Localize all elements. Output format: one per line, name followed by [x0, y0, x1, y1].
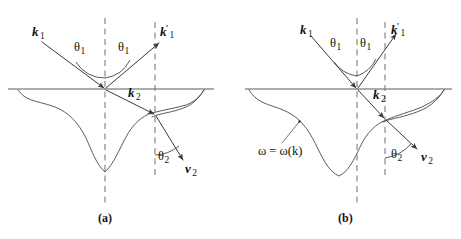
panel-a-label-k2: k2: [128, 86, 141, 102]
panel-a-dispersion-curve-inner: [152, 90, 204, 117]
panel-a-label-theta1-left-sub: 1: [81, 46, 86, 56]
panel-b-dispersion-label-leader: [282, 122, 299, 143]
panel-a-label-k2-base: k: [128, 85, 135, 100]
panel-a-label-k2-sub: 2: [136, 92, 141, 102]
panel-b-label-k2-sub: 2: [381, 94, 386, 104]
panel-b-label-theta1-right-base: θ: [360, 36, 366, 50]
panel-b-label-theta1-left-base: θ: [330, 36, 336, 50]
panel-a-label-theta2: θ2: [158, 150, 169, 165]
panel-a-label-v2: v2: [185, 162, 197, 178]
panel-a-group: [8, 18, 214, 203]
panel-b-label-theta1-right-sub: 1: [367, 42, 372, 52]
panel-b-label-k2: k2: [373, 88, 386, 104]
panel-a-label-theta1-right-base: θ: [118, 40, 124, 54]
panel-b-dispersion-leader-dot: [298, 120, 301, 123]
panel-a-caption: (a): [98, 212, 112, 224]
panel-b-label-k1-prime: k'1: [391, 21, 405, 39]
panel-a-dispersion-curve-left: [18, 90, 204, 172]
panel-a-label-theta1-left: θ1: [74, 41, 85, 56]
panel-b-label-v2-sub: 2: [428, 156, 433, 166]
panel-a-label-k1-sub: 1: [40, 31, 45, 41]
panel-b-label-theta2-base: θ: [391, 147, 397, 161]
panel-b-label-v2: v2: [421, 150, 433, 166]
physics-diagram-figure: k1 k'1 k2 v2 θ1 θ1 θ2 (a) k1 k'1 k2 v2 θ…: [0, 0, 461, 239]
panel-a-label-k1-prime: k'1: [160, 23, 174, 41]
panel-b-label-theta2-sub: 2: [398, 153, 403, 163]
panel-a-label-theta2-sub: 2: [165, 155, 170, 165]
panel-b-group: [245, 18, 452, 203]
panel-b-label-k1: k1: [300, 23, 313, 39]
panel-a-label-k1-prime-mark: ': [166, 22, 168, 34]
panel-a-label-theta1-left-base: θ: [74, 40, 80, 54]
panel-a-label-k1-prime-sub: 1: [169, 30, 174, 40]
panel-b-label-dispersion-relation: ω = ω(k): [258, 145, 302, 158]
panel-a-label-k1-base: k: [32, 24, 39, 39]
panel-a-incident-vector-k1: [42, 42, 104, 88]
panel-b-label-k1-base: k: [300, 22, 307, 37]
panel-a-label-theta2-base: θ: [158, 149, 164, 163]
panel-b-group-velocity-vector-v2: [386, 120, 417, 149]
panel-a-label-v2-sub: 2: [192, 168, 197, 178]
panel-b-label-v2-base: v: [421, 149, 427, 164]
panel-b-label-k1-prime-mark: ': [397, 20, 399, 32]
panel-b-label-theta2: θ2: [391, 148, 402, 163]
panel-b-angle-arc-theta1-right: [357, 59, 376, 76]
panel-b-dispersion-curve-left: [249, 90, 444, 176]
panel-a-label-theta1-right-sub: 1: [125, 46, 130, 56]
panel-b-angle-arc-theta1-left: [334, 62, 357, 76]
panel-a-label-k1: k1: [32, 25, 45, 41]
panel-a-angle-arc-theta1-right: [105, 60, 130, 78]
panel-a-label-theta1-right: θ1: [118, 41, 129, 56]
panel-a-reflected-vector-k1prime: [106, 43, 159, 88]
panel-b-label-theta1-left: θ1: [330, 37, 341, 52]
panel-b-label-k1-prime-sub: 1: [400, 28, 405, 38]
panel-b-label-theta1-left-sub: 1: [337, 42, 342, 52]
panel-b-label-k1-sub: 1: [308, 29, 313, 39]
panel-b-label-k2-base: k: [373, 87, 380, 102]
panel-b-label-theta1-right: θ1: [360, 37, 371, 52]
panel-a-label-v2-base: v: [185, 161, 191, 176]
panel-b-caption: (b): [338, 212, 353, 224]
